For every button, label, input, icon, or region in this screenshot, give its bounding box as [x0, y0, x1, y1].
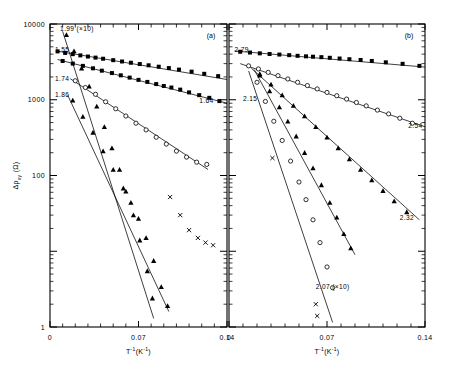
data-point-circle [364, 104, 368, 108]
y-tick-label: 1 [41, 324, 45, 331]
data-point-square [101, 57, 105, 61]
data-point-square [137, 78, 141, 82]
data-point-square [120, 59, 124, 63]
data-point-square [145, 80, 149, 84]
data-point-square [129, 61, 133, 65]
data-point-square [157, 65, 161, 69]
data-point-circle [315, 87, 319, 91]
series-label-1.86: 1.86 [55, 91, 69, 98]
data-point-square [147, 63, 151, 67]
data-point-circle [325, 90, 329, 94]
data-point-square [162, 84, 166, 88]
y-tick-label: 100 [32, 172, 45, 179]
data-point-circle [276, 74, 280, 78]
data-point-circle [398, 116, 402, 120]
plot-background [0, 0, 456, 371]
data-point-circle [305, 83, 309, 87]
data-point-square [370, 59, 374, 63]
data-point-circle [93, 92, 97, 96]
data-point-circle [83, 85, 87, 89]
y-tick-label: 10000 [24, 21, 45, 28]
data-point-circle [296, 80, 300, 84]
data-point-square [94, 56, 98, 60]
data-point-square [177, 68, 181, 72]
data-point-square [100, 69, 104, 73]
data-point-square [169, 86, 173, 90]
data-point-circle [272, 119, 276, 123]
data-point-circle [263, 99, 267, 103]
data-point-square [384, 60, 388, 64]
data-point-circle [297, 180, 301, 184]
data-point-square [217, 99, 221, 103]
data-point-square [187, 90, 191, 94]
data-point-circle [114, 107, 118, 111]
data-point-circle [289, 159, 293, 163]
x-tick-label-a: 0 [48, 334, 52, 341]
data-point-circle [256, 67, 260, 71]
data-point-square [110, 71, 114, 75]
data-point-circle [335, 94, 339, 98]
data-point-circle [318, 241, 322, 245]
data-point-square [359, 58, 363, 62]
data-point-square [311, 55, 315, 59]
data-point-circle [134, 121, 138, 125]
x-tick-label-a: 0.07 [131, 334, 146, 341]
data-point-square [338, 57, 342, 61]
data-point-circle [325, 265, 329, 269]
data-point-square [190, 70, 194, 74]
data-point-square [401, 62, 405, 66]
data-point-circle [104, 100, 108, 104]
data-point-square [78, 53, 82, 57]
data-point-square [216, 74, 220, 78]
series-label-2.54: 2.54 [408, 122, 422, 129]
two-panel-semilog-plot: 1.551.641.741.861.99 (×10)(a) 2.792.542.… [0, 0, 456, 371]
panel-label-b: (b) [405, 32, 414, 40]
data-point-square [178, 88, 182, 92]
series-label-2.79: 2.79 [235, 46, 249, 53]
series-label-2.07: 2.07 (×10) [316, 283, 350, 291]
data-point-circle [266, 70, 270, 74]
data-point-circle [354, 100, 358, 104]
y-tick-label: 1000 [28, 96, 45, 103]
data-point-circle [247, 64, 251, 68]
series-label-2.15: 2.15 [243, 95, 257, 102]
data-point-circle [311, 218, 315, 222]
x-tick-label-b: 0 [227, 334, 231, 341]
data-point-square [61, 59, 65, 63]
x-tick-label-b: 0.07 [319, 334, 334, 341]
data-point-square [287, 53, 291, 57]
data-point-circle [174, 149, 178, 153]
data-point-circle [164, 142, 168, 146]
data-point-circle [387, 112, 391, 116]
data-point-square [167, 66, 171, 70]
series-label-1.55: 1.55 [55, 46, 69, 53]
series-label-1.99: 1.99 (×10) [60, 25, 94, 33]
data-point-circle [124, 114, 128, 118]
data-point-square [296, 54, 300, 58]
data-point-square [347, 57, 351, 61]
x-tick-label-b: 0.14 [417, 334, 432, 341]
data-point-square [138, 62, 142, 66]
panel-label-a: (a) [207, 32, 216, 40]
data-point-circle [375, 108, 379, 112]
data-point-square [319, 55, 323, 59]
data-point-square [202, 72, 206, 76]
data-point-circle [280, 138, 284, 142]
data-point-square [304, 54, 308, 58]
data-point-circle [184, 155, 188, 159]
data-point-square [328, 56, 332, 60]
data-point-circle [345, 97, 349, 101]
data-point-square [417, 64, 421, 68]
data-point-square [258, 51, 262, 55]
data-point-circle [195, 160, 199, 164]
data-point-square [268, 52, 272, 56]
series-label-1.64: 1.64 [199, 97, 213, 104]
data-point-square [154, 82, 158, 86]
series-label-2.32: 2.32 [400, 214, 414, 221]
data-point-square [91, 66, 95, 70]
data-point-circle [286, 77, 290, 81]
data-point-circle [154, 135, 158, 139]
data-point-circle [144, 128, 148, 132]
data-point-circle [205, 162, 209, 166]
data-point-square [86, 55, 90, 59]
